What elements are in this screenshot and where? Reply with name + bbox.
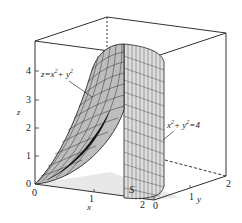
z-tick-0: 0 (26, 178, 31, 189)
cylinder-equation: x2+ y2=4 (166, 119, 200, 130)
paraboloid-surface (35, 44, 124, 184)
x-axis-label: x (86, 202, 91, 212)
paraboloid-label-group: z=x2+ y2 (40, 68, 92, 97)
z-tick-1: 1 (26, 150, 31, 161)
z-tick-2: 2 (26, 122, 31, 133)
cylinder-label-group: x2+ y2=4 (163, 119, 200, 140)
z-axis-labels: 4 3 2 1 0 z (16, 65, 31, 189)
y-axis-label: y (196, 194, 201, 204)
z-tick-4: 4 (26, 65, 31, 76)
paraboloid-equation: z=x2+ y2 (40, 68, 73, 79)
cylinder-surface (124, 44, 164, 200)
z-axis-label: z (16, 108, 21, 117)
x-tick-2: 2 (140, 199, 145, 210)
z-tick-3: 3 (26, 94, 31, 105)
x-tick-0: 0 (32, 187, 37, 198)
y-tick-2: 2 (226, 178, 231, 189)
surface-figure: 4 3 2 1 0 z 0 1 2 x 0 1 2 y S z=x2+ y2 x… (0, 0, 242, 223)
y-tick-1: 1 (189, 191, 194, 202)
region-s-label: S (129, 183, 135, 195)
y-tick-0: 0 (153, 200, 158, 211)
